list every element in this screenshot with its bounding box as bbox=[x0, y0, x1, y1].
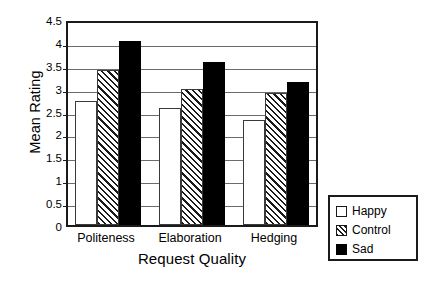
x-tick-label: Politeness bbox=[77, 231, 135, 245]
bar-control-elaboration bbox=[181, 89, 203, 225]
legend-swatch-control-icon bbox=[336, 225, 347, 236]
x-tick-label: Hedging bbox=[251, 231, 298, 245]
y-tick-label: 0.5 bbox=[34, 199, 62, 210]
x-axis-title: Request Quality bbox=[66, 250, 318, 267]
legend-entry-sad: Sad bbox=[336, 240, 416, 258]
y-tick-label: 4.5 bbox=[34, 16, 62, 27]
y-tick-label: 2 bbox=[34, 130, 62, 141]
legend-label: Sad bbox=[352, 243, 373, 255]
legend-swatch-sad-icon bbox=[336, 244, 347, 255]
y-tick-label: 1.5 bbox=[34, 153, 62, 164]
bar-control-politeness bbox=[97, 70, 119, 225]
y-tick-label: 2.5 bbox=[34, 107, 62, 118]
bar-sad-hedging bbox=[287, 82, 309, 225]
legend-entry-control: Control bbox=[336, 221, 416, 239]
legend-label: Control bbox=[352, 224, 391, 236]
y-axis-tick-labels: 00.511.522.533.544.5 bbox=[34, 21, 62, 227]
bar-happy-elaboration bbox=[159, 108, 181, 225]
bar-happy-hedging bbox=[243, 120, 265, 225]
bars-layer bbox=[68, 23, 316, 225]
x-tick-label: Elaboration bbox=[158, 231, 221, 245]
bar-chart-figure: Mean Rating 00.511.522.533.544.5 Politen… bbox=[0, 0, 427, 291]
y-tick-label: 3.5 bbox=[34, 61, 62, 72]
bar-happy-politeness bbox=[75, 101, 97, 225]
y-tick-label: 1 bbox=[34, 176, 62, 187]
bar-sad-elaboration bbox=[203, 62, 225, 225]
y-tick-label: 4 bbox=[34, 38, 62, 49]
bar-sad-politeness bbox=[119, 41, 141, 225]
y-tick-label: 3 bbox=[34, 84, 62, 95]
y-tick-label: 0 bbox=[34, 222, 62, 233]
legend-label: Happy bbox=[352, 205, 387, 217]
x-axis-tick-labels: PolitenessElaborationHedging bbox=[66, 231, 318, 249]
plot-area bbox=[66, 21, 318, 227]
bar-control-hedging bbox=[265, 93, 287, 225]
chart-legend: HappyControlSad bbox=[328, 195, 418, 261]
legend-swatch-happy-icon bbox=[336, 206, 347, 217]
legend-entry-happy: Happy bbox=[336, 202, 416, 220]
